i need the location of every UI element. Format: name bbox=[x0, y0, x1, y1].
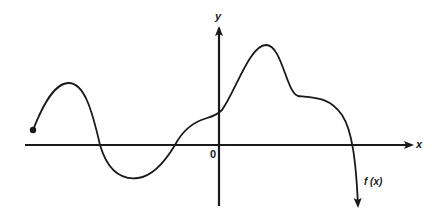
function-curve bbox=[33, 45, 358, 206]
x-axis-label: x bbox=[416, 139, 422, 150]
y-axis-label: y bbox=[215, 11, 221, 22]
start-point-dot bbox=[30, 127, 36, 133]
function-label: f (x) bbox=[364, 177, 382, 187]
origin-label: 0 bbox=[210, 149, 216, 160]
